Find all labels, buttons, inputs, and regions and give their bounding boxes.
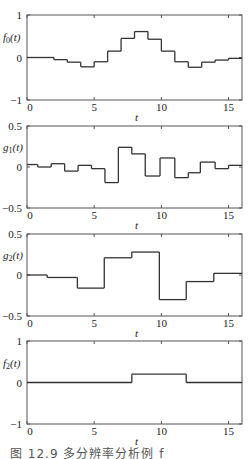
subplot-3: 051015−0.500.5g2(t)t bbox=[2, 228, 242, 339]
x-tick-label: 10 bbox=[156, 209, 168, 221]
y-label-arg: (t) bbox=[10, 357, 21, 370]
subplot-1: 051015−101f0(t)t bbox=[3, 9, 242, 123]
y-tick-label: 0 bbox=[17, 377, 23, 389]
axes-frame bbox=[27, 234, 242, 316]
x-tick-label: 5 bbox=[91, 101, 97, 113]
x-tick-label: 0 bbox=[27, 101, 33, 113]
x-tick-label: 15 bbox=[223, 317, 235, 329]
x-tick-label: 15 bbox=[223, 209, 235, 221]
x-axis-label: t bbox=[135, 111, 139, 123]
y-axis-label: g1(t) bbox=[3, 141, 23, 155]
x-axis-label: t bbox=[135, 219, 139, 231]
axes-frame bbox=[27, 126, 242, 208]
x-tick-label: 10 bbox=[156, 317, 168, 329]
y-tick-label: −0.5 bbox=[2, 310, 22, 322]
y-axis-label: f0(t) bbox=[3, 31, 21, 45]
y-axis-label: f2(t) bbox=[3, 357, 21, 371]
subplot-4: 051015−101f2(t)t bbox=[3, 335, 242, 447]
y-label-arg: (t) bbox=[10, 31, 21, 44]
x-tick-label: 5 bbox=[91, 425, 97, 437]
y-tick-label: 0 bbox=[17, 269, 23, 281]
y-tick-label: 0 bbox=[17, 161, 23, 173]
y-label-arg: (t) bbox=[13, 141, 24, 154]
y-tick-label: −1 bbox=[10, 94, 22, 106]
y-tick-label: 0.5 bbox=[8, 228, 22, 240]
y-tick-label: 1 bbox=[17, 9, 23, 21]
x-tick-label: 0 bbox=[27, 425, 33, 437]
x-tick-label: 15 bbox=[223, 425, 235, 437]
x-tick-label: 10 bbox=[156, 101, 168, 113]
x-tick-label: 0 bbox=[27, 317, 33, 329]
y-tick-label: 1 bbox=[17, 335, 23, 347]
x-tick-label: 5 bbox=[91, 317, 97, 329]
figure-caption: 图 12.9 多分辨率分析例 f bbox=[10, 444, 164, 459]
subplot-2: 051015−0.500.5g1(t)t bbox=[2, 120, 242, 231]
y-tick-label: 0 bbox=[17, 52, 23, 64]
y-tick-label: −1 bbox=[10, 418, 22, 430]
y-tick-label: 0.5 bbox=[8, 120, 22, 132]
y-axis-label: g2(t) bbox=[3, 249, 23, 263]
y-label-arg: (t) bbox=[13, 249, 24, 262]
y-tick-label: −0.5 bbox=[2, 202, 22, 214]
x-tick-label: 0 bbox=[27, 209, 33, 221]
x-tick-label: 5 bbox=[91, 209, 97, 221]
x-axis-label: t bbox=[135, 327, 139, 339]
x-tick-label: 15 bbox=[223, 101, 235, 113]
axes-frame bbox=[27, 15, 242, 100]
figure: 051015−101f0(t)t051015−0.500.5g1(t)t0510… bbox=[0, 0, 250, 459]
x-tick-label: 10 bbox=[156, 425, 168, 437]
